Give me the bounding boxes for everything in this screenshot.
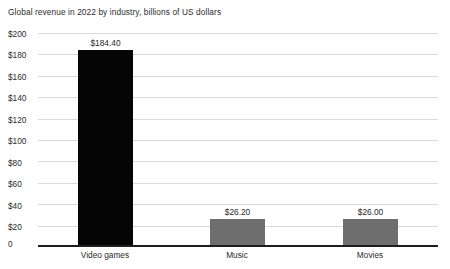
x-category-label-movies: Movies [315,250,425,261]
bar-value-label: $184.40 [66,38,145,48]
plot-area: $184.40 $26.20 $26.00 [38,33,438,247]
y-tick-label: $140 [8,93,26,103]
bar-value-label: $26.20 [198,207,277,217]
x-axis-line [38,245,438,247]
gridline [38,33,438,34]
bar-video-games[interactable] [78,50,133,247]
y-tick-label: $100 [8,136,26,146]
y-tick-label: $20 [8,222,22,232]
bar-movies[interactable] [343,219,398,247]
chart-title: Global revenue in 2022 by industry, bill… [8,7,221,18]
y-tick-label: $40 [8,201,22,211]
y-tick-label: $200 [8,29,26,39]
bar-music[interactable] [210,219,265,247]
x-axis: Video games Music Movies [38,250,438,266]
bar-chart: Global revenue in 2022 by industry, bill… [0,0,450,269]
x-category-label-music: Music [182,250,292,261]
y-tick-label: $180 [8,50,26,60]
y-tick-label: $160 [8,72,26,82]
y-tick-label: $60 [8,179,22,189]
x-category-label-video-games: Video games [50,250,160,261]
y-tick-label: $80 [8,158,22,168]
y-axis: $200 $180 $160 $140 $120 $100 $80 $60 $4… [0,0,38,269]
y-tick-label: 0 [8,239,13,249]
bar-value-label: $26.00 [331,207,410,217]
y-tick-label: $120 [8,115,26,125]
